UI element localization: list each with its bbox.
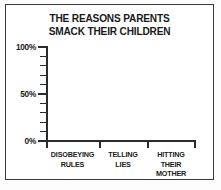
- y-tick-100: [38, 46, 47, 48]
- y-tick-60: [40, 84, 47, 85]
- category-label-line: DISOBEYING: [49, 150, 97, 160]
- y-tick-20: [40, 122, 47, 123]
- y-tick-40: [40, 103, 47, 104]
- x-tick-divider-2: [147, 141, 149, 148]
- category-label-line: MOTHER: [149, 169, 192, 179]
- chart-title: THE REASONS PARENTS SMACK THEIR CHILDREN: [13, 12, 205, 37]
- category-label-disobeying-rules: DISOBEYING RULES: [49, 150, 97, 169]
- y-label-0-wrap: 0%: [0, 136, 36, 146]
- category-label-line: RULES: [49, 160, 97, 170]
- x-axis-line: [46, 140, 196, 142]
- x-tick-start: [46, 141, 48, 148]
- y-label-100-wrap: 100%: [0, 42, 36, 52]
- plot-area: [48, 47, 196, 140]
- y-label-50-wrap: 50%: [0, 89, 36, 99]
- y-tick-10: [40, 131, 47, 132]
- y-tick-90: [40, 56, 47, 57]
- y-tick-50: [38, 93, 47, 95]
- category-label-line: LIES: [101, 160, 144, 170]
- x-tick-divider-1: [99, 141, 101, 148]
- y-axis-label-50: 50%: [3, 89, 36, 99]
- chart-title-line-2: SMACK THEIR CHILDREN: [13, 25, 205, 38]
- y-tick-80: [40, 65, 47, 66]
- y-axis-label-0: 0%: [3, 136, 36, 146]
- category-label-hitting-their-mother: HITTING THEIR MOTHER: [149, 150, 192, 179]
- category-label-line: THEIR: [149, 160, 192, 170]
- x-tick-end: [194, 141, 196, 148]
- y-tick-30: [40, 112, 47, 113]
- y-tick-70: [40, 75, 47, 76]
- category-label-line: TELLING: [101, 150, 144, 160]
- chart-figure: THE REASONS PARENTS SMACK THEIR CHILDREN…: [0, 0, 221, 190]
- chart-title-line-1: THE REASONS PARENTS: [13, 12, 205, 25]
- category-label-telling-lies: TELLING LIES: [101, 150, 144, 169]
- category-label-line: HITTING: [149, 150, 192, 160]
- y-axis-label-100: 100%: [3, 42, 36, 52]
